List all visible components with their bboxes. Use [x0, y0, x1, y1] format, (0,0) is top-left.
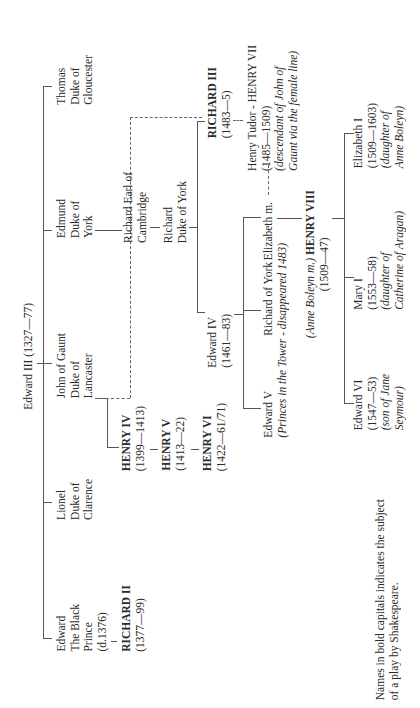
connector — [243, 310, 261, 311]
node-richard-of-york: Richard of York — [262, 262, 276, 336]
connector — [95, 230, 122, 231]
node-richard-duke-of-york: Richard Duke of York — [162, 181, 189, 243]
connector — [243, 408, 261, 409]
dashed-connector — [130, 117, 202, 118]
node-richard-ii: RICHARD II (1377—99) — [120, 585, 147, 652]
node-thomas: Thomas Duke of Gloucester — [55, 55, 96, 105]
node-elizabeth-of-york: Elizabeth m. — [262, 202, 276, 260]
connector — [277, 218, 302, 219]
connector — [197, 121, 205, 122]
connector — [107, 398, 108, 447]
node-henry-iv: HENRY IV (1399—1413) — [120, 406, 147, 471]
node-henry-tudor: Henry Tudor - HENRY VII (1485—1509) (des… — [246, 45, 300, 171]
connector — [189, 227, 197, 228]
dashed-connector — [130, 117, 131, 398]
connector — [150, 449, 158, 450]
footnote: Names in bold capitals indicates the sub… — [374, 499, 401, 700]
connector — [332, 218, 344, 219]
node-richard-earl-of-cambridge: Richard Earl of Cambridge — [122, 172, 149, 243]
node-john-of-gaunt: John of Gaunt Duke of Lancaster — [55, 333, 96, 398]
connector — [43, 363, 52, 364]
node-mary-i: Mary I (1553—58) (daughter of Catherine … — [352, 211, 406, 310]
dashed-connector — [268, 165, 269, 195]
node-henry-viii: (Anne Boleyn m.) HENRY VIII (1509—47) — [304, 190, 331, 338]
node-henry-v: HENRY V (1413—22) — [160, 417, 187, 471]
connector — [197, 312, 205, 313]
connector — [43, 86, 52, 87]
node-edward-vi: Edward VI (1547—53) (son of Jane Seymour… — [352, 374, 406, 430]
connector — [43, 502, 52, 503]
connector — [243, 217, 244, 408]
connector — [243, 217, 261, 218]
connector — [197, 121, 198, 312]
node-black-prince: Edward The Black Prince (d.1376) — [55, 604, 109, 652]
connector — [191, 449, 199, 450]
node-elizabeth-i: Elizabeth I (1509—1603) (daughter of Ann… — [352, 103, 406, 168]
connector — [344, 133, 345, 403]
connector — [43, 230, 52, 231]
connector — [111, 641, 117, 642]
connector — [107, 447, 119, 448]
node-edward-iv: Edward IV (1461—83) — [206, 314, 233, 368]
dashed-connector — [95, 398, 130, 399]
connector — [234, 314, 243, 315]
dashed-connector — [233, 120, 243, 121]
node-edmund: Edmund Duke of York — [55, 199, 96, 238]
node-henry-vi: HENRY VI (1422—61/71) — [201, 403, 228, 471]
node-richard-iii: RICHARD III (1483—5) — [206, 67, 233, 138]
node-edward-iii: Edward III (1327—77) — [22, 303, 36, 410]
connector — [150, 227, 160, 228]
connector — [43, 638, 52, 639]
node-lionel: Lionel Duke of Clarence — [55, 479, 96, 520]
